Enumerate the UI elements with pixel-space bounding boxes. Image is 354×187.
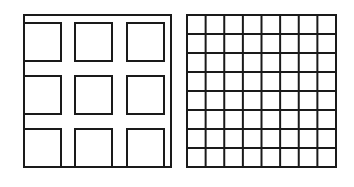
- left-grid-3x3: [24, 15, 171, 167]
- square-cell: [75, 23, 112, 61]
- square-cell: [127, 129, 164, 167]
- square-cell: [75, 76, 112, 114]
- square-cell: [75, 129, 112, 167]
- diagram-canvas: [0, 0, 354, 187]
- square-cell: [127, 76, 164, 114]
- square-cell: [24, 23, 61, 61]
- right-grid-8x8: [187, 15, 336, 167]
- square-cell: [24, 76, 61, 114]
- square-cell: [127, 23, 164, 61]
- square-cell: [24, 129, 61, 167]
